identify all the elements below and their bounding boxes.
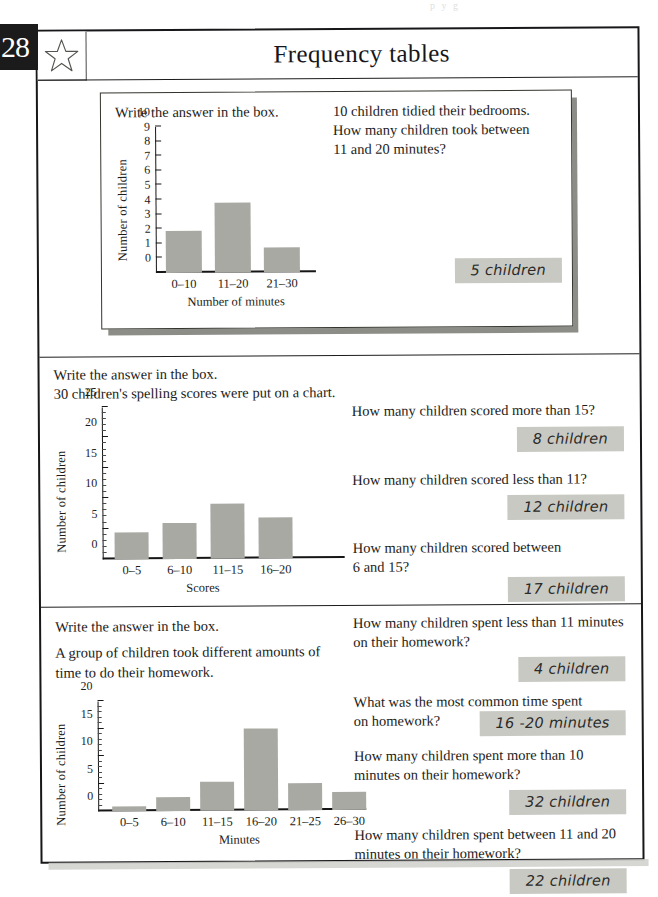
section-3-instruction: Write the answer in the box.: [55, 617, 219, 637]
question-text: How many children spent less than 11 min…: [353, 612, 625, 651]
ytick-mark-minor: [98, 733, 102, 734]
xcat-0: 0–5: [122, 563, 141, 578]
ytick-9: 9: [144, 119, 155, 134]
chart-homework-ylabel: Number of children: [54, 700, 70, 850]
ytick-mark-minor: [102, 503, 106, 504]
qa-item: How many children scored more than 15? 8…: [352, 400, 624, 452]
ytick-mark-minor: [102, 455, 106, 456]
ytick-3: 15: [81, 706, 98, 721]
ytick-3: 3: [145, 207, 156, 222]
ytick-mark: [156, 242, 162, 243]
qa-item: How many children spent less than 11 min…: [353, 612, 625, 683]
ytick-mark-minor: [98, 760, 102, 761]
chart-bedrooms-ylabel: Number of children: [115, 125, 131, 295]
ytick-mark-minor: [102, 424, 106, 425]
answer-box[interactable]: 32 children: [509, 790, 626, 816]
page-title: Frequency tables: [85, 28, 637, 79]
xcat-2: 11–15: [212, 563, 243, 578]
chart-bedrooms: Number of children 0 1 2 3 4 5 6 7 8 9 1…: [115, 124, 316, 295]
ytick-0: 0: [92, 537, 103, 552]
chart-spelling-xlabel: Scores: [103, 580, 303, 596]
ytick-mark: [102, 497, 108, 498]
ytick-mark-minor: [102, 442, 106, 443]
star-badge: [37, 32, 86, 81]
ytick-mark-minor: [98, 705, 102, 706]
question-text: How many children scored less than 11?: [352, 469, 624, 489]
ytick-mark: [102, 467, 108, 468]
xcat-1: 6–10: [167, 563, 192, 578]
ytick-mark-minor: [98, 744, 102, 745]
ytick-mark-minor: [98, 766, 102, 767]
bar-0: [112, 806, 146, 812]
xcat-2: 21–30: [266, 276, 297, 291]
ytick-1: 1: [145, 236, 156, 251]
ytick-mark-minor: [98, 722, 102, 723]
ytick-5: 5: [144, 178, 155, 193]
ytick-6: 6: [144, 163, 155, 178]
ytick-mark: [155, 140, 161, 141]
chart-spelling-scores: Number of children 0 5 10 15 20 25: [54, 404, 345, 598]
ytick-4: 4: [144, 192, 155, 207]
xcat-1: 11–20: [218, 277, 249, 292]
ytick-mark: [102, 528, 108, 529]
ytick-mark: [156, 257, 162, 258]
ytick-mark: [155, 199, 161, 200]
ytick-1: 5: [87, 761, 98, 776]
worksheet-page: Frequency tables Write the answer in the…: [35, 26, 644, 864]
ytick-mark-minor: [102, 485, 106, 486]
ytick-4: 20: [85, 415, 102, 430]
section-3: Write the answer in the box. A group of …: [41, 604, 643, 860]
ytick-2: 2: [145, 221, 156, 236]
ytick-mark: [156, 228, 162, 229]
ytick-4: 20: [80, 679, 97, 694]
ytick-2: 10: [85, 476, 102, 491]
answer-box[interactable]: 22 children: [510, 869, 627, 895]
ytick-mark-minor: [102, 479, 106, 480]
chart-spelling-ylabel: Number of children: [54, 406, 70, 598]
section-1-card: Write the answer in the box. 10 children…: [100, 90, 573, 330]
section-1-intro-line-2: How many children took between: [333, 120, 561, 141]
section-2-questions: How many children scored more than 15? 8…: [352, 400, 625, 603]
xcat-1: 6–10: [161, 815, 186, 830]
ytick-mark: [155, 126, 161, 127]
ytick-0: 0: [145, 251, 156, 266]
answer-box[interactable]: 8 children: [517, 426, 624, 452]
ytick-mark-minor: [98, 799, 102, 800]
page-number-badge: 28: [0, 24, 38, 70]
ytick-mark-minor: [102, 509, 106, 510]
section-1-intro-line-3: 11 and 20 minutes?: [333, 139, 561, 160]
section-1-intro-line-1: 10 children tidied their bedrooms.: [333, 101, 561, 122]
bar-1: [162, 522, 196, 559]
ytick-mark-minor: [98, 749, 102, 750]
answer-box[interactable]: 16 -20 minutes: [479, 710, 625, 736]
ytick-mark-minor: [103, 540, 107, 541]
chart-bedrooms-xlabel: Number of minutes: [156, 294, 316, 310]
qa-item: What was the most common time spent on h…: [354, 691, 626, 737]
ytick-mark-minor: [102, 461, 106, 462]
ytick-mark: [98, 727, 104, 728]
ytick-mark-minor: [102, 473, 106, 474]
qa-item: How many children spent between 11 and 2…: [354, 825, 626, 896]
ytick-mark-minor: [98, 716, 102, 717]
bar-1: [156, 797, 190, 811]
question-text: How many children spent more than 10 min…: [354, 745, 626, 784]
answer-box[interactable]: 12 children: [507, 494, 624, 520]
ytick-mark: [156, 213, 162, 214]
ytick-5: 25: [85, 385, 102, 400]
answer-box-1[interactable]: 5 children: [455, 258, 562, 284]
section-3-intro: A group of children took different amoun…: [55, 642, 323, 683]
ytick-mark-minor: [102, 412, 106, 413]
ytick-7: 7: [144, 148, 155, 163]
ytick-mark-minor: [102, 448, 106, 449]
answer-box[interactable]: 4 children: [518, 656, 625, 682]
answer-box[interactable]: 17 children: [508, 576, 625, 602]
ytick-mark-minor: [103, 552, 107, 553]
ytick-mark-minor: [102, 430, 106, 431]
xcat-4: 21–25: [290, 814, 321, 829]
bar-3: [244, 728, 279, 811]
star-icon: [44, 38, 80, 74]
ytick-mark-minor: [102, 418, 106, 419]
ytick-mark: [155, 184, 161, 185]
ytick-10: 10: [138, 105, 155, 120]
ytick-mark-minor: [102, 521, 106, 522]
